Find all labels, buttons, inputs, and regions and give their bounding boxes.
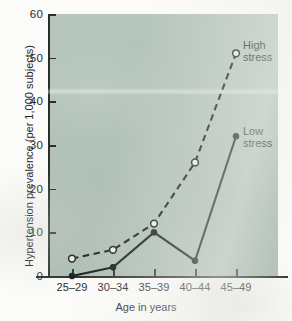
data-point xyxy=(110,246,117,253)
series-label-high-stress-line1: High xyxy=(243,40,272,52)
series-label-low-stress-line2: stress xyxy=(243,138,272,150)
data-point xyxy=(151,220,158,227)
data-point xyxy=(110,264,116,270)
series-label-low-stress-line1: Low xyxy=(243,126,272,138)
data-point xyxy=(69,255,76,262)
data-point xyxy=(192,159,199,166)
series-line-low-stress xyxy=(72,136,236,276)
chart-figure: 60 50 40 30 20 10 0 25–29 30–34 35–39 40… xyxy=(0,0,292,321)
data-point xyxy=(233,50,240,57)
data-point xyxy=(69,273,75,279)
series-label-low-stress: Low stress xyxy=(243,126,272,149)
data-point xyxy=(151,229,157,235)
data-point xyxy=(192,258,198,264)
series-label-high-stress: High stress xyxy=(243,40,272,63)
data-point xyxy=(233,133,239,139)
series-label-high-stress-line2: stress xyxy=(243,52,272,64)
